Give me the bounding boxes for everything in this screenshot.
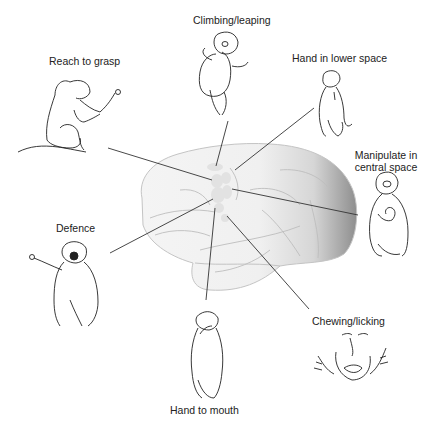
monkey-defence — [30, 242, 99, 326]
brain-illustration — [141, 143, 356, 290]
label-climbing-leaping: Climbing/leaping — [193, 14, 271, 26]
diagram-stage: Reach to grasp Climbing/leaping Hand in … — [0, 0, 429, 424]
label-reach-to-grasp: Reach to grasp — [49, 55, 120, 67]
brain-outline — [141, 143, 356, 290]
label-hand-lower-space: Hand in lower space — [292, 52, 387, 64]
label-defence: Defence — [56, 222, 95, 234]
label-hand-to-mouth: Hand to mouth — [170, 404, 239, 416]
monkey-climbing-leaping — [199, 32, 248, 115]
label-manipulate-central-space: Manipulate in central space — [351, 149, 421, 173]
monkey-manipulate-central-space — [370, 172, 409, 256]
monkey-hand-lower-space — [319, 71, 352, 136]
label-manipulate-line2: central space — [351, 161, 421, 173]
monkey-reach-to-grasp — [18, 80, 121, 152]
label-manipulate-line1: Manipulate in — [351, 149, 421, 161]
label-chewing-licking: Chewing/licking — [312, 315, 385, 327]
monkey-hand-to-mouth — [191, 312, 223, 398]
face-chewing-licking — [314, 334, 388, 381]
